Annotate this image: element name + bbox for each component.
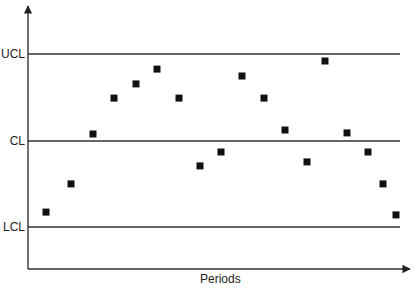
data-point [68, 180, 75, 187]
lcl-label: LCL [3, 221, 25, 233]
cl-label: CL [10, 135, 25, 147]
ucl-label: UCL [1, 48, 25, 60]
data-point [43, 209, 50, 216]
data-point [133, 80, 140, 87]
data-point [322, 58, 329, 65]
data-point [304, 158, 311, 165]
data-point [380, 180, 387, 187]
data-point [111, 95, 118, 102]
data-points [43, 58, 400, 219]
x-axis-label: Periods [200, 272, 241, 286]
data-point [261, 95, 268, 102]
control-chart [0, 0, 414, 288]
data-point [154, 66, 161, 73]
data-point [239, 73, 246, 80]
data-point [365, 149, 372, 156]
data-point [393, 211, 400, 218]
data-point [197, 162, 204, 169]
data-point [218, 149, 225, 156]
data-point [344, 129, 351, 136]
data-point [282, 127, 289, 134]
data-point [90, 131, 97, 138]
data-point [176, 95, 183, 102]
